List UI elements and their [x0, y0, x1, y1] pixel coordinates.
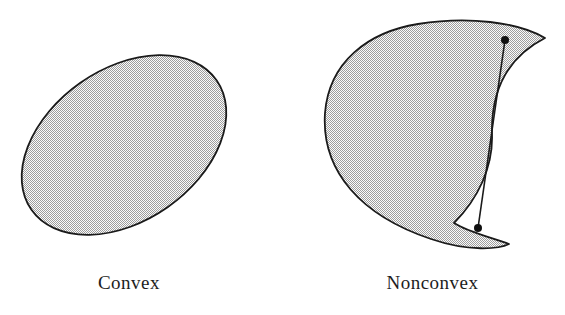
endpoint-dot-b [474, 224, 482, 232]
nonconvex-crescent-fill [300, 10, 560, 260]
endpoint-dot-a [501, 36, 509, 44]
convex-caption-label: Convex [0, 272, 258, 294]
nonconvex-shape-group [300, 10, 560, 260]
convex-ellipse-fill [0, 50, 260, 260]
figure-canvas [0, 0, 565, 315]
nonconvex-caption-label: Nonconvex [300, 272, 565, 294]
convex-shape-group [0, 18, 260, 272]
convexity-illustration-figure: Convex Nonconvex [0, 0, 565, 315]
